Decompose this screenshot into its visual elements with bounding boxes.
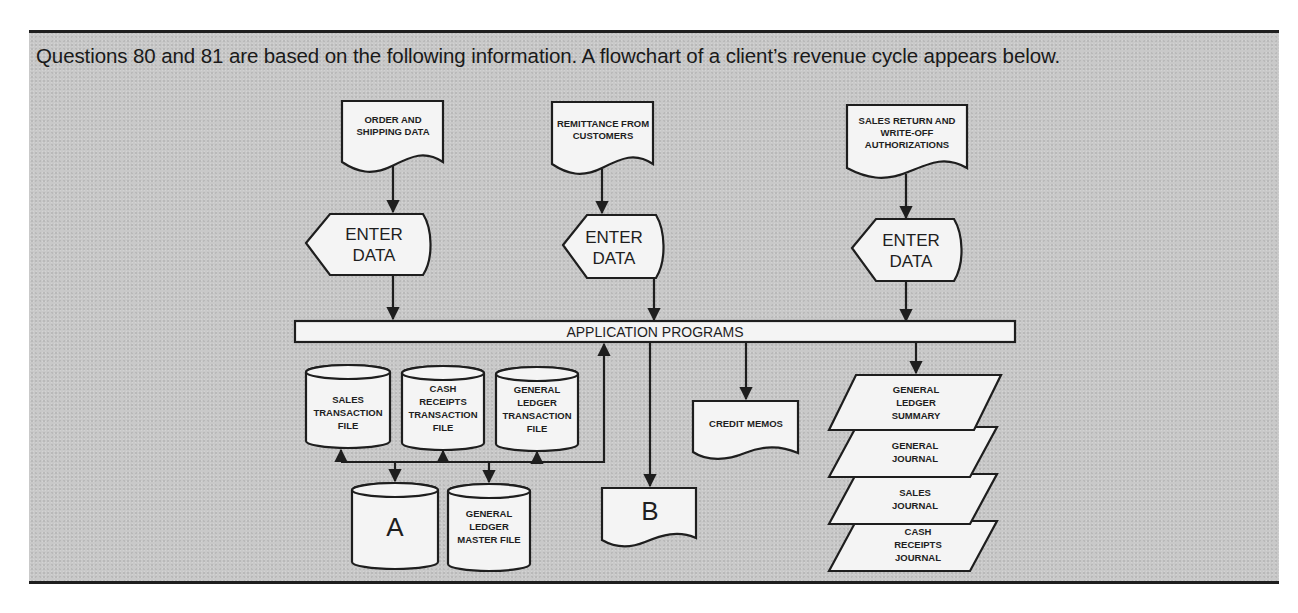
master-file-a: A [352, 483, 438, 569]
report-cash-receipts-journal: CASHRECEIPTSJOURNAL [829, 521, 997, 571]
output-document-credit-memos: CREDIT MEMOS [693, 401, 798, 459]
application-programs-process: APPLICATION PROGRAMS [295, 321, 1015, 342]
input-document-remittance: REMITTANCE FROMCUSTOMERS [552, 102, 653, 174]
output-document-b: B [602, 488, 696, 546]
svg-text:ORDER ANDSHIPPING DATA: ORDER ANDSHIPPING DATA [356, 114, 429, 137]
report-general-journal: GENERALJOURNAL [829, 427, 997, 477]
input-document-sales-return: SALES RETURN ANDWRITE-OFFAUTHORIZATIONS [847, 105, 967, 178]
svg-text:B: B [641, 496, 658, 526]
svg-text:APPLICATION PROGRAMS: APPLICATION PROGRAMS [566, 324, 743, 340]
svg-text:CREDIT MEMOS: CREDIT MEMOS [709, 418, 783, 429]
input-document-order-shipping: ORDER ANDSHIPPING DATA [342, 101, 443, 172]
general-ledger-transaction-file: GENERALLEDGERTRANSACTIONFILE [496, 367, 578, 451]
cash-receipts-transaction-file: CASHRECEIPTSTRANSACTIONFILE [402, 366, 484, 450]
report-sales-journal: SALESJOURNAL [829, 474, 997, 524]
svg-text:GENERALLEDGERSUMMARY: GENERALLEDGERSUMMARY [892, 384, 941, 421]
svg-text:A: A [386, 512, 404, 542]
enter-data-sales-return: ENTERDATA [852, 219, 962, 281]
sales-transaction-file: SALESTRANSACTIONFILE [306, 365, 390, 448]
general-ledger-master-file: GENERALLEDGERMASTER FILE [448, 484, 530, 571]
revenue-cycle-flowchart: ORDER ANDSHIPPING DATA REMITTANCE FROMCU… [0, 0, 1298, 613]
enter-data-remittance: ENTERDATA [563, 215, 664, 278]
report-general-ledger-summary: GENERALLEDGERSUMMARY [829, 375, 1001, 430]
enter-data-order: ENTERDATA [306, 214, 431, 275]
